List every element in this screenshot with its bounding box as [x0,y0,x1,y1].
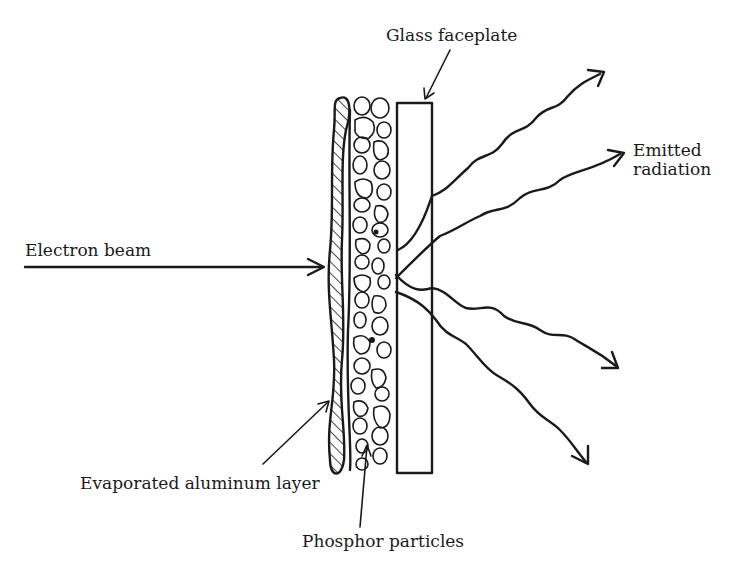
glass-faceplate-pointer [424,50,450,99]
electron-beam-arrow [25,259,324,275]
label-emitted-radiation-line2: radiation [633,159,711,179]
diagram-canvas: Glass faceplate Emitted radiation Electr… [0,0,735,567]
label-electron-beam: Electron beam [25,240,151,260]
label-emitted-radiation-line1: Emitted [633,140,702,160]
label-phosphor-particles: Phosphor particles [302,531,464,551]
phosphor-layer [348,97,391,470]
label-glass-faceplate: Glass faceplate [386,25,517,45]
label-aluminum-layer: Evaporated aluminum layer [80,473,320,493]
emitted-radiation-waves [396,70,624,464]
aluminum-layer [329,97,350,473]
aluminum-layer-pointer [263,401,329,464]
